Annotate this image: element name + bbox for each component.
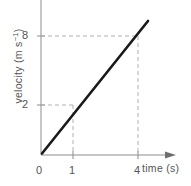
x-tick-label-0: 0 (36, 164, 42, 176)
x-tick-label-4: 4 (134, 164, 140, 176)
velocity-data-line (42, 21, 148, 154)
y-axis-title-base: velocity (m s (12, 41, 24, 103)
y-axis-title-exponent: −1 (11, 32, 20, 41)
x-axis-arrow-icon (165, 152, 176, 159)
y-axis-title: velocity (m s−1) (12, 20, 24, 112)
plot-area (0, 0, 191, 186)
x-axis-title: time (s) (142, 162, 179, 174)
velocity-time-graph-figure: 8 2 0 1 4 time (s) velocity (m s−1) (0, 0, 191, 186)
y-axis-title-close: ) (12, 28, 24, 32)
x-tick-label-1: 1 (69, 164, 75, 176)
